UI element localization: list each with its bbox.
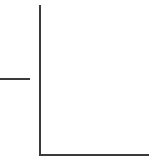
horizontal-axis-line	[39, 154, 149, 156]
left-stub-line	[0, 78, 30, 80]
vertical-axis-line	[39, 5, 41, 156]
